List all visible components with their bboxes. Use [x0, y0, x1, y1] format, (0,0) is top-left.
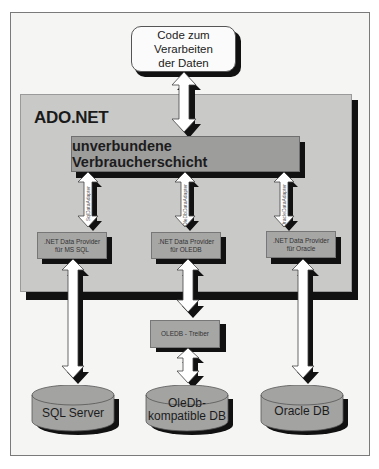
- disconnected-layer: unverbundene Verbraucherschicht: [71, 136, 300, 172]
- provider-line: für Oracle: [287, 245, 316, 253]
- provider-mssql: .NET Data Provider für MS SQL: [37, 232, 107, 259]
- database-oledb: OleDb- kompatible DB: [144, 385, 226, 435]
- provider-line: .NET Data Provider: [158, 238, 214, 246]
- provider-line: .NET Data Provider: [44, 238, 100, 246]
- double-arrow-icon: [167, 72, 203, 138]
- double-arrow-icon: OracleDataAdapter: [270, 172, 300, 234]
- code-box-line: Verarbeiten: [154, 42, 213, 56]
- adapter-label: OleDbDataAdapter: [182, 184, 188, 226]
- double-arrow-icon: OleDbDataAdapter: [171, 172, 201, 234]
- adapter-label: OracleDataAdapter: [281, 184, 287, 227]
- adapter-label: SqlDataAdapter: [85, 186, 91, 221]
- oledb-driver: OLEDB - Treiber: [150, 320, 220, 348]
- database-label: kompatible DB: [144, 410, 230, 423]
- double-arrow-icon: [173, 348, 207, 390]
- database-label: SQL Server: [30, 407, 116, 420]
- provider-oledb: .NET Data Provider für OLEDB: [151, 232, 221, 259]
- provider-oracle: .NET Data Provider für Oracle: [266, 231, 336, 258]
- double-arrow-icon: [288, 259, 322, 387]
- double-arrow-icon: [173, 259, 207, 321]
- database-oracle: Oracle DB: [259, 385, 341, 435]
- code-box-line: Code zum: [157, 28, 209, 42]
- database-sqlserver: SQL Server: [30, 385, 112, 435]
- double-arrow-icon: SqlDataAdapter: [74, 172, 104, 234]
- container-shadow: [352, 100, 358, 300]
- provider-line: .NET Data Provider: [273, 237, 329, 245]
- provider-line: für MS SQL: [55, 246, 89, 254]
- adonet-title: ADO.NET: [34, 108, 108, 128]
- double-arrow-icon: [58, 259, 92, 387]
- code-box-line: der Daten: [158, 56, 209, 70]
- code-box: Code zum Verarbeiten der Daten: [131, 26, 236, 72]
- database-label: Oracle DB: [259, 405, 345, 418]
- provider-line: für OLEDB: [170, 246, 201, 254]
